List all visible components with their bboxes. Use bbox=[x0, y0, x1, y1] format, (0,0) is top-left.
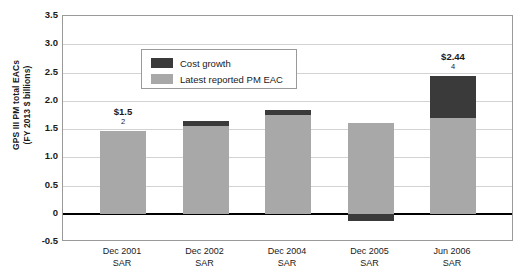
bar[interactable] bbox=[348, 16, 394, 242]
bar-value-footnote: 2 bbox=[83, 117, 163, 126]
y-tick-label: 1.5 bbox=[24, 123, 58, 133]
bar-value-amount: $1.5 bbox=[83, 106, 163, 117]
x-tick-label-line2: SAR bbox=[242, 258, 332, 270]
y-axis-title-line1: GPS III PM total EACs bbox=[11, 60, 23, 150]
legend-item-latest-reported-pm-eac: Latest reported PM EAC bbox=[151, 71, 296, 87]
legend-item-cost-growth: Cost growth bbox=[151, 55, 296, 71]
y-tick-label: -0.5 bbox=[24, 236, 58, 246]
x-tick-label-line1: Dec 2005 bbox=[325, 246, 415, 258]
y-tick-label: 2.0 bbox=[24, 95, 58, 105]
x-tick-label-line2: SAR bbox=[77, 258, 167, 270]
legend-label-cost-growth: Cost growth bbox=[180, 58, 231, 69]
growth-swatch-icon bbox=[151, 58, 173, 68]
y-tick-label: 1.0 bbox=[24, 151, 58, 161]
bar-segment-latest-reported-pm-eac bbox=[265, 115, 311, 214]
bar-segment-cost-growth-negative bbox=[348, 214, 394, 221]
x-tick-label: Dec 2002SAR bbox=[160, 246, 250, 269]
x-tick-label-line1: Dec 2002 bbox=[160, 246, 250, 258]
bar-chart: GPS III PM total EACs (FY 2013 $ billion… bbox=[0, 0, 527, 277]
base-swatch-icon bbox=[151, 74, 173, 84]
plot-area: $1.52$2.444 Cost growth Latest reported … bbox=[62, 15, 513, 241]
bar-segment-latest-reported-pm-eac bbox=[348, 123, 394, 213]
x-tick-label: Dec 2001SAR bbox=[77, 246, 167, 269]
x-tick-label-line2: SAR bbox=[407, 258, 497, 270]
x-tick-label: Jun 2006SAR bbox=[407, 246, 497, 269]
y-tick-label: 3.0 bbox=[24, 38, 58, 48]
legend-label-latest-reported-pm-eac: Latest reported PM EAC bbox=[180, 74, 283, 85]
legend: Cost growth Latest reported PM EAC bbox=[141, 49, 297, 89]
y-axis-tick-labels: 3.53.02.52.01.51.00.50-0.5 bbox=[22, 0, 58, 277]
bar-segment-latest-reported-pm-eac bbox=[100, 131, 146, 214]
x-tick-label-line1: Jun 2006 bbox=[407, 246, 497, 258]
bar-segment-cost-growth bbox=[183, 121, 229, 127]
y-tick-label: 2.5 bbox=[24, 67, 58, 77]
x-tick-label: Dec 2005SAR bbox=[325, 246, 415, 269]
y-tick-label: 0 bbox=[24, 208, 58, 218]
x-tick-label-line1: Dec 2004 bbox=[242, 246, 332, 258]
x-axis-tick-labels: Dec 2001SARDec 2002SARDec 2004SARDec 200… bbox=[62, 246, 513, 276]
x-tick-label: Dec 2004SAR bbox=[242, 246, 332, 269]
x-tick-label-line1: Dec 2001 bbox=[77, 246, 167, 258]
bar-segment-latest-reported-pm-eac bbox=[183, 126, 229, 214]
bar-value-amount: $2.44 bbox=[413, 51, 493, 62]
y-tick-label: 3.5 bbox=[24, 10, 58, 20]
x-tick-label-line2: SAR bbox=[325, 258, 415, 270]
x-tick-label-line2: SAR bbox=[160, 258, 250, 270]
bar-value-label: $1.52 bbox=[83, 106, 163, 126]
bar-value-footnote: 4 bbox=[413, 62, 493, 71]
bar-segment-cost-growth bbox=[265, 110, 311, 115]
y-tick-label: 0.5 bbox=[24, 180, 58, 190]
bar-segment-cost-growth bbox=[430, 76, 476, 118]
bar-value-label: $2.444 bbox=[413, 51, 493, 71]
bar-segment-latest-reported-pm-eac bbox=[430, 118, 476, 214]
bar[interactable] bbox=[100, 16, 146, 242]
